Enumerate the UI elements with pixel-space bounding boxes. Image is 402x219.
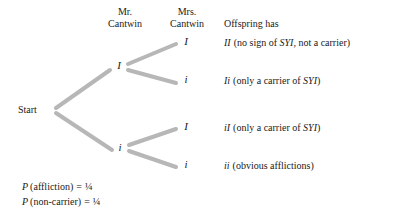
column-header-father: Mr. Cantwin — [95, 6, 155, 29]
mother-allele-2: i — [179, 74, 193, 85]
mother-allele-4: i — [179, 159, 193, 170]
outcome-text-close-3: ) — [317, 122, 320, 133]
outcome-text-open-2: (only a carrier of — [233, 75, 303, 86]
genetics-punnett-tree-diagram: Mr. Cantwin Mrs. Cantwin Offspring has S… — [0, 0, 402, 219]
probability-event-2: (non-carrier) — [30, 196, 81, 207]
outcome-gene-1: SYI — [280, 37, 294, 48]
probability-equals-1: = — [76, 181, 82, 192]
probability-symbol-2: P — [22, 196, 28, 207]
branch-I-to-I — [128, 44, 176, 64]
probability-symbol-1: P — [22, 181, 28, 192]
outcome-gene-2: SYI — [303, 75, 317, 86]
branch-start-to-i — [56, 113, 112, 150]
start-node-label: Start — [18, 104, 37, 115]
outcome-genotype-2: Ii — [224, 75, 230, 86]
outcome-text-close-2: ) — [317, 75, 320, 86]
offspring-outcome-4: ii(obvious afflictions) — [224, 160, 314, 172]
branch-start-to-I — [56, 70, 110, 108]
mother-allele-3: I — [179, 121, 193, 132]
probability-event-1: (affliction) — [30, 181, 73, 192]
outcome-text-open-4: (obvious afflictions) — [233, 160, 314, 171]
outcome-genotype-3: iI — [224, 122, 230, 133]
offspring-outcome-3: iI(only a carrier of SYI) — [224, 122, 320, 134]
outcome-gene-3: SYI — [303, 122, 317, 133]
probability-equals-2: = — [84, 196, 90, 207]
branch-i-to-i — [129, 151, 176, 167]
column-header-offspring: Offspring has — [224, 18, 334, 30]
offspring-outcome-2: Ii(only a carrier of SYI) — [224, 75, 320, 87]
branch-i-to-I — [129, 129, 176, 145]
outcome-genotype-1: II — [224, 37, 231, 48]
probability-value-2: ¼ — [93, 196, 101, 207]
probability-non-carrier: P(non-carrier)=¼ — [22, 196, 100, 208]
outcome-genotype-4: ii — [224, 160, 230, 171]
mother-allele-1: I — [179, 36, 193, 47]
probability-affliction: P(affliction)=¼ — [22, 181, 92, 193]
outcome-text-open-1: (no sign of — [234, 37, 280, 48]
offspring-outcome-1: II(no sign of SYI, not a carrier) — [224, 37, 350, 49]
father-allele-recessive: i — [113, 142, 127, 153]
probability-value-1: ¼ — [85, 181, 93, 192]
column-header-mother: Mrs. Cantwin — [157, 6, 217, 29]
outcome-text-open-3: (only a carrier of — [233, 122, 303, 133]
father-allele-dominant: I — [112, 60, 126, 71]
branch-I-to-i — [128, 70, 176, 83]
outcome-text-close-1: , not a carrier) — [293, 37, 350, 48]
